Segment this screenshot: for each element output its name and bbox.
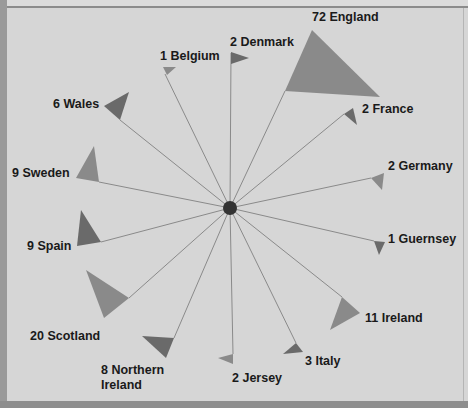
- plot-area: [0, 0, 468, 408]
- spoke-sweden: [99, 182, 230, 208]
- flag-spain: [77, 210, 101, 246]
- flag-jersey: [218, 354, 233, 364]
- label-guernsey: 1 Guernsey: [388, 232, 456, 247]
- label-wales: 6 Wales: [53, 97, 99, 112]
- flag-italy: [283, 343, 303, 354]
- center-hub-icon: [223, 201, 237, 215]
- spoke-ireland: [230, 208, 342, 297]
- spoke-germany: [230, 178, 371, 208]
- label-sweden: 9 Sweden: [12, 166, 70, 181]
- flag-guernsey: [374, 241, 385, 255]
- flag-northern-ireland: [142, 336, 174, 358]
- flag-scotland: [86, 270, 129, 318]
- flag-sweden: [76, 146, 99, 182]
- flag-ireland: [330, 297, 360, 330]
- label-italy: 3 Italy: [305, 354, 340, 369]
- flag-denmark: [231, 52, 249, 64]
- label-germany: 2 Germany: [388, 159, 453, 174]
- label-ireland: 11 Ireland: [365, 311, 423, 326]
- label-jersey: 2 Jersey: [232, 371, 282, 386]
- spoke-northern-ireland: [174, 208, 230, 338]
- label-denmark: 2 Denmark: [230, 35, 294, 50]
- spoke-wales: [120, 120, 230, 208]
- flag-belgium: [163, 67, 176, 75]
- label-england: 72 England: [312, 10, 379, 25]
- spoke-denmark: [230, 53, 231, 208]
- spoke-jersey: [230, 208, 233, 354]
- flag-england: [285, 30, 380, 97]
- label-france: 2 France: [362, 102, 413, 117]
- flag-germany: [371, 173, 384, 190]
- label-spain: 9 Spain: [27, 239, 71, 254]
- flag-france: [344, 108, 357, 125]
- spoke-guernsey: [230, 208, 374, 241]
- spoke-france: [230, 114, 344, 208]
- spoke-belgium: [165, 74, 230, 208]
- spoke-italy: [230, 208, 296, 343]
- label-belgium: 1 Belgium: [160, 49, 220, 64]
- label-northern-ireland: 8 NorthernIreland: [101, 363, 164, 393]
- radial-flag-chart: 72 England2 France2 Germany1 Guernsey11 …: [0, 0, 468, 408]
- spoke-england: [230, 91, 285, 208]
- label-scotland: 20 Scotland: [30, 329, 100, 344]
- flag-wales: [104, 92, 129, 120]
